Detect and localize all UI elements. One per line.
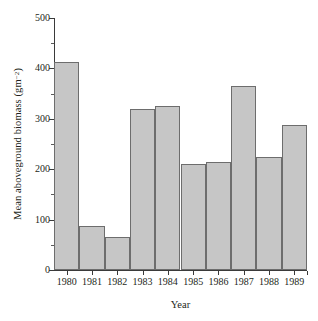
bar-1983 [130,109,155,270]
x-axis-tick [143,271,144,275]
x-axis-tick [117,271,118,275]
y-axis-minor-tick [51,43,54,44]
y-axis-major-tick [49,270,54,271]
y-axis-major-tick [49,18,54,19]
x-axis-tick-label: 1986 [206,276,231,288]
bar-1986 [206,162,231,270]
y-axis-title-suffix: ) [12,68,23,72]
y-axis-tick-label: 100 [22,215,50,225]
bar-1984 [155,106,180,270]
x-axis-tick-label: 1982 [105,276,130,288]
y-axis-tick-label: 300 [22,114,50,124]
y-axis-tick-label: 200 [22,164,50,174]
bar-1981 [79,226,104,270]
x-axis-tick [67,271,68,275]
x-axis-tick-labels: 1980198119821983198419851986198719881989 [54,276,307,290]
y-axis-tick-label: 0 [22,265,50,275]
x-axis-tick [244,271,245,275]
x-axis-tick-label: 1985 [181,276,206,288]
y-axis-tick-labels: 0100200300400500 [22,0,50,321]
y-axis-tick-label: 400 [22,63,50,73]
bar-1985 [181,164,206,270]
x-axis-tick-label: 1984 [155,276,180,288]
x-axis-tick-label: 1981 [79,276,104,288]
x-axis-tick-label: 1980 [54,276,79,288]
x-axis-tick [218,271,219,275]
x-axis-tick-label: 1987 [231,276,256,288]
plot-area [54,18,307,270]
bar-1982 [105,237,130,270]
y-axis-tick-label: 500 [22,13,50,23]
x-axis-tick [269,271,270,275]
bar-1980 [54,62,79,270]
x-axis-tick [193,271,194,275]
x-axis-tick-label: 1988 [256,276,281,288]
x-axis-tick [168,271,169,275]
x-axis-tick [307,271,308,275]
bar-1988 [256,157,281,270]
bar-chart: Mean aboveground biomass (gm−2) 01002003… [0,0,318,321]
x-axis-title: Year [54,299,307,311]
bar-1987 [231,86,256,270]
x-axis-tick-label: 1989 [282,276,307,288]
y-axis-title-text: Mean aboveground biomass (gm [12,79,23,220]
x-axis-tick-label: 1983 [130,276,155,288]
x-axis-tick [92,271,93,275]
bar-1989 [282,125,307,270]
x-axis-tick [294,271,295,275]
